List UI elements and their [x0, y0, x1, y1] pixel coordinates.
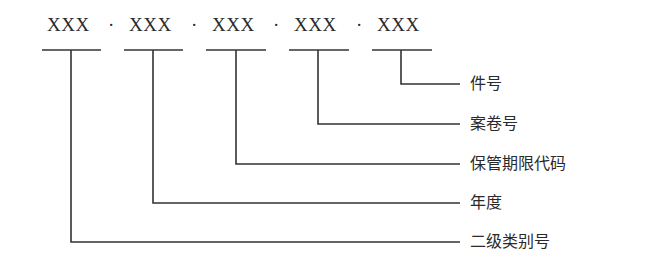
- label-secondary-category: 二级类别号: [470, 234, 550, 250]
- label-item-number: 件号: [470, 76, 502, 92]
- label-year: 年度: [470, 195, 502, 211]
- label-file-number: 案卷号: [470, 116, 518, 132]
- label-retention-code: 保管期限代码: [470, 156, 566, 172]
